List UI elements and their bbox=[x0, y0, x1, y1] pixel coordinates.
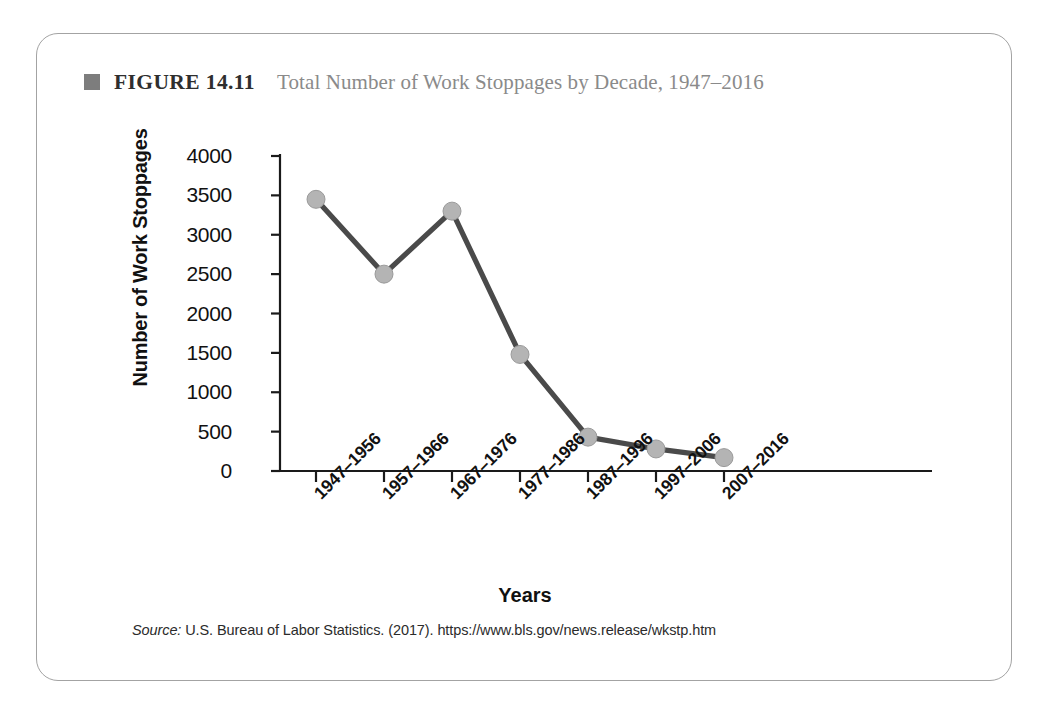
data-series-line bbox=[316, 199, 724, 457]
x-axis-title: Years bbox=[37, 584, 1013, 607]
figure-card: FIGURE 14.11 Total Number of Work Stoppa… bbox=[36, 33, 1012, 681]
data-point-marker[interactable] bbox=[375, 265, 393, 283]
data-point-marker[interactable] bbox=[443, 202, 461, 220]
source-text: U.S. Bureau of Labor Statistics. (2017).… bbox=[181, 622, 716, 638]
source-label: Source: bbox=[132, 622, 181, 638]
data-point-markers bbox=[307, 190, 733, 466]
data-point-marker[interactable] bbox=[511, 345, 529, 363]
source-note: Source: U.S. Bureau of Labor Statistics.… bbox=[132, 622, 716, 638]
chart-area: Number of Work Stoppages 050010001500200… bbox=[37, 34, 1013, 682]
data-point-marker[interactable] bbox=[307, 190, 325, 208]
data-point-marker[interactable] bbox=[715, 449, 733, 467]
y-axis-ticks bbox=[271, 156, 280, 471]
